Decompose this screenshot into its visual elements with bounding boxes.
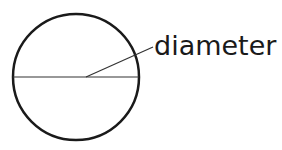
diameter-label: diameter bbox=[154, 30, 277, 61]
circle-diagram: diameter bbox=[0, 0, 282, 150]
leader-line bbox=[86, 47, 153, 77]
